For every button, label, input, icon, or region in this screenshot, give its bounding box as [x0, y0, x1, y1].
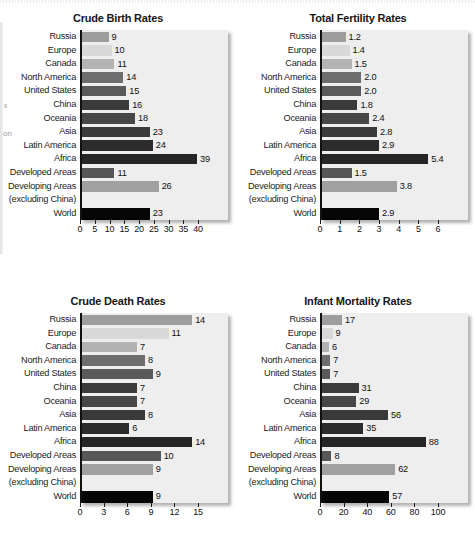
bar — [82, 369, 153, 379]
bar — [322, 451, 331, 461]
bar-row: 2.0 — [322, 84, 468, 98]
category-label: Latin America — [0, 422, 76, 436]
bar — [322, 410, 388, 420]
axis-tick-label: 15 — [193, 507, 203, 518]
bar — [322, 342, 329, 352]
bar-value-label: 88 — [429, 436, 439, 448]
bar-value-label: 24 — [156, 139, 166, 151]
bar — [322, 355, 330, 365]
category-label: United States — [0, 84, 76, 98]
bar — [82, 437, 192, 447]
bar-row: 57 — [322, 490, 468, 504]
category-label: United States — [240, 84, 316, 98]
bar — [322, 45, 350, 55]
category-label: World — [0, 207, 76, 221]
bar — [82, 464, 153, 474]
bar — [82, 59, 114, 69]
chart-crude-death-rates: Crude Death RatesRussiaEuropeCanadaNorth… — [0, 295, 228, 545]
category-label: Developing Areas — [0, 463, 76, 477]
category-label: Developed Areas — [240, 166, 316, 180]
bar — [322, 208, 379, 220]
category-label: Europe — [0, 327, 76, 341]
bar-value-label: 56 — [391, 409, 401, 421]
bar-value-label: 14 — [195, 436, 205, 448]
bar-value-label: 1.8 — [360, 99, 372, 111]
category-label: Canada — [240, 57, 316, 71]
bar-value-label: 9 — [156, 368, 161, 380]
bar-row: 8 — [82, 408, 228, 422]
bar-value-label: 1.5 — [355, 167, 367, 179]
bar-row — [82, 476, 228, 490]
bar — [82, 491, 153, 503]
category-label: Developing Areas — [240, 463, 316, 477]
bar-value-label: 2.9 — [382, 139, 394, 151]
axis-tick-label: 0 — [78, 507, 83, 518]
bar-value-label: 62 — [398, 463, 408, 475]
bar-value-label: 9 — [336, 327, 341, 339]
axis-tick-label: 2 — [357, 224, 362, 235]
bar-row: 11 — [82, 166, 228, 180]
chart-title: Total Fertility Rates — [240, 12, 468, 26]
value-axis: 0123456 — [320, 220, 468, 236]
bar — [82, 355, 145, 365]
bar-row: 1.2 — [322, 30, 468, 44]
bar-value-label: 35 — [366, 422, 376, 434]
bar-row: 3.8 — [322, 180, 468, 194]
axis-tick-label: 0 — [318, 224, 323, 235]
category-label: Latin America — [0, 139, 76, 153]
bar-value-label: 14 — [126, 71, 136, 83]
bar — [82, 86, 126, 96]
bar-value-label: 17 — [345, 314, 355, 326]
bar-value-label: 6 — [332, 341, 337, 353]
category-label: World — [240, 490, 316, 504]
bar-row — [82, 193, 228, 207]
bar-row: 1.4 — [322, 44, 468, 58]
bar-value-label: 6 — [132, 422, 137, 434]
bar — [82, 140, 153, 150]
bar-row: 5.4 — [322, 152, 468, 166]
bar-value-label: 11 — [172, 327, 181, 339]
category-label: (excluding China) — [0, 193, 76, 207]
category-label: Asia — [240, 408, 316, 422]
category-label: Africa — [240, 152, 316, 166]
bar-row: 18 — [82, 112, 228, 126]
bar-row: 23 — [82, 207, 228, 221]
bar — [322, 328, 333, 338]
axis-tick-label: 3 — [377, 224, 382, 235]
category-label: Russia — [240, 313, 316, 327]
bar-value-label: 57 — [392, 490, 402, 502]
category-label: Oceania — [0, 395, 76, 409]
category-label: Russia — [0, 30, 76, 44]
category-label: Russia — [240, 30, 316, 44]
bar-row: 6 — [82, 422, 228, 436]
bar-value-label: 3.8 — [400, 180, 412, 192]
bar — [82, 328, 169, 338]
bar-row: 56 — [322, 408, 468, 422]
axis-tick-label: 0 — [78, 224, 83, 235]
category-label: Canada — [0, 340, 76, 354]
bar-value-label: 10 — [164, 450, 174, 462]
category-label: Asia — [0, 125, 76, 139]
axis-tick-label: 0 — [318, 507, 323, 518]
chart-title: Crude Birth Rates — [0, 12, 228, 26]
bar-value-label: 7 — [140, 341, 145, 353]
bar — [322, 86, 361, 96]
bar-row: 8 — [82, 354, 228, 368]
bar-value-label: 23 — [153, 126, 163, 138]
bar-row: 31 — [322, 381, 468, 395]
category-label: Latin America — [240, 422, 316, 436]
bar-value-label: 14 — [195, 314, 205, 326]
axis-tick-label: 40 — [193, 224, 203, 235]
bar-value-label: 7 — [333, 354, 338, 366]
category-label: Latin America — [240, 139, 316, 153]
category-label: Russia — [0, 313, 76, 327]
bar-row: 9 — [82, 463, 228, 477]
bar-value-label: 8 — [334, 450, 339, 462]
axis-tick-label: 20 — [134, 224, 144, 235]
category-label: Africa — [240, 435, 316, 449]
category-label: Developing Areas — [0, 180, 76, 194]
bar-row: 62 — [322, 463, 468, 477]
bar — [322, 113, 369, 123]
bar-row: 9 — [82, 30, 228, 44]
bar-row — [322, 476, 468, 490]
